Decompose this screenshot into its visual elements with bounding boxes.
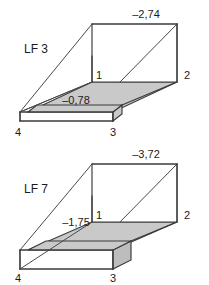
lf3-corner-4-label: 4 — [15, 126, 21, 138]
lf3-slab-top-sliver — [28, 105, 122, 112]
lf7-corner-4-label: 4 — [15, 272, 21, 284]
diagram-canvas: –2,74 LF 3 –0,78 1 2 3 4 — [0, 0, 209, 285]
lf7-corner-1-label: 1 — [96, 209, 102, 221]
lf3-top-value-label: –2,74 — [132, 8, 160, 20]
figure-lf3: –2,74 LF 3 –0,78 1 2 3 4 — [15, 8, 190, 138]
lf3-corner-1-label: 1 — [96, 69, 102, 81]
figure-lf7: –3,72 LF 7 –1,75 1 2 3 4 — [15, 148, 190, 284]
lf7-slab-top-band — [28, 241, 131, 250]
lf3-corner-3-label: 3 — [110, 126, 116, 138]
lf7-case-label: LF 7 — [24, 182, 48, 196]
lf3-back-rectangle-face — [92, 24, 177, 82]
lf3-front-value-label: –0,78 — [62, 94, 90, 106]
figure-sheet: –2,74 LF 3 –0,78 1 2 3 4 — [0, 0, 209, 285]
lf7-corner-2-label: 2 — [184, 209, 190, 221]
lf7-front-value-label: –1,75 — [62, 216, 90, 228]
lf3-slab-front-face — [20, 112, 113, 121]
lf7-top-value-label: –3,72 — [132, 148, 160, 160]
lf3-case-label: LF 3 — [24, 42, 48, 56]
lf7-back-rectangle-face — [92, 164, 177, 222]
lf7-corner-3-label: 3 — [110, 272, 116, 284]
lf3-corner-2-label: 2 — [184, 69, 190, 81]
